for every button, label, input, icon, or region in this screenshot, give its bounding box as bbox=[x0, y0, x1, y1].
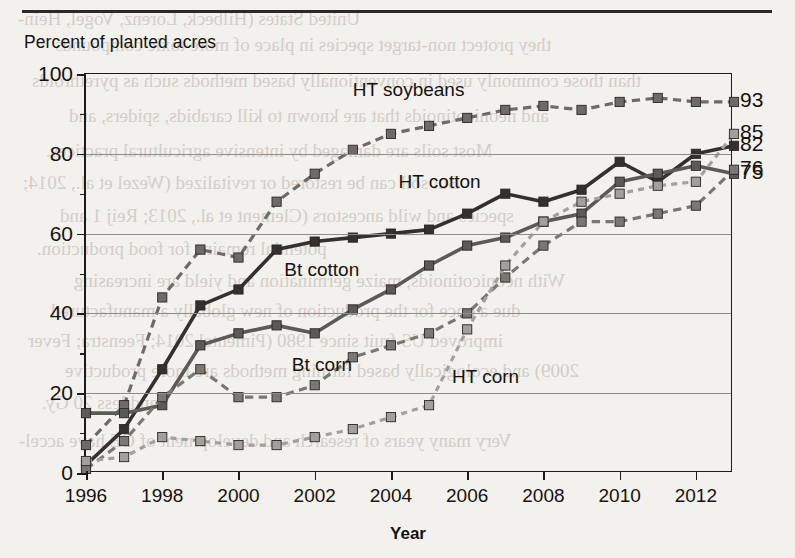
data-point-marker bbox=[196, 436, 205, 445]
series-ht-soybeans bbox=[81, 93, 738, 449]
x-axis-tick bbox=[696, 471, 698, 480]
data-point-marker bbox=[120, 436, 129, 445]
y-gridline bbox=[86, 154, 731, 155]
data-point-marker bbox=[424, 261, 433, 270]
y-axis-tick bbox=[77, 393, 86, 395]
series-label-ht-cotton: HT cotton bbox=[399, 171, 481, 193]
data-point-marker bbox=[577, 105, 586, 114]
data-point-marker bbox=[424, 121, 433, 130]
data-point-marker bbox=[501, 189, 510, 198]
data-point-marker bbox=[501, 105, 510, 114]
data-point-marker bbox=[539, 101, 548, 110]
data-point-marker bbox=[615, 217, 624, 226]
x-axis-tick bbox=[620, 471, 622, 480]
top-rule-divider bbox=[22, 10, 772, 13]
series-bt-cotton bbox=[81, 161, 738, 418]
x-axis-tick bbox=[86, 471, 88, 480]
y-axis-tick-label: 100 bbox=[38, 63, 73, 84]
data-point-marker bbox=[386, 413, 395, 422]
data-point-marker bbox=[501, 261, 510, 270]
x-axis-tick bbox=[162, 471, 164, 480]
data-point-marker bbox=[539, 217, 548, 226]
x-axis-tick-label: 2000 bbox=[217, 485, 259, 507]
data-point-marker bbox=[729, 129, 738, 138]
y-axis-minor-tick bbox=[80, 114, 86, 115]
data-point-marker bbox=[691, 177, 700, 186]
data-point-marker bbox=[729, 141, 738, 150]
series-label-bt-cotton: Bt cotton bbox=[284, 259, 359, 281]
data-point-marker bbox=[272, 321, 281, 330]
data-point-marker bbox=[539, 241, 548, 250]
y-axis-tick bbox=[77, 313, 86, 315]
data-point-marker bbox=[81, 409, 90, 418]
y-axis-tick bbox=[77, 74, 86, 76]
y-axis-minor-tick bbox=[80, 274, 86, 275]
plot-area: 0204060801001996199820002002200420062008… bbox=[84, 73, 732, 472]
chart-figure: Percent of planted acres 020406080100199… bbox=[0, 0, 795, 558]
data-point-marker bbox=[234, 285, 243, 294]
series-line bbox=[86, 166, 734, 413]
y-axis-tick-label: 80 bbox=[50, 143, 73, 164]
data-point-marker bbox=[310, 329, 319, 338]
x-axis-title: Year bbox=[84, 524, 732, 544]
data-point-marker bbox=[577, 185, 586, 194]
data-point-marker bbox=[653, 209, 662, 218]
x-axis-tick-label: 2004 bbox=[370, 485, 412, 507]
y-gridline bbox=[86, 234, 731, 235]
x-axis-tick bbox=[543, 471, 545, 480]
data-point-marker bbox=[653, 93, 662, 102]
data-point-marker bbox=[424, 401, 433, 410]
data-point-marker bbox=[463, 209, 472, 218]
data-point-marker bbox=[501, 273, 510, 282]
y-gridline bbox=[86, 393, 731, 394]
y-axis-tick-label: 40 bbox=[50, 302, 73, 323]
data-point-marker bbox=[386, 341, 395, 350]
series-label-ht-soybeans: HT soybeans bbox=[353, 79, 465, 101]
data-point-marker bbox=[653, 169, 662, 178]
data-point-marker bbox=[234, 440, 243, 449]
x-axis-tick-label: 2002 bbox=[294, 485, 336, 507]
end-value-label: 82 bbox=[740, 132, 763, 156]
data-point-marker bbox=[615, 157, 624, 166]
data-point-marker bbox=[729, 165, 738, 174]
data-point-marker bbox=[729, 97, 738, 106]
data-point-marker bbox=[310, 237, 319, 246]
data-point-marker bbox=[463, 113, 472, 122]
data-point-marker bbox=[310, 381, 319, 390]
data-point-marker bbox=[653, 181, 662, 190]
x-axis-tick-label: 2012 bbox=[675, 485, 717, 507]
y-axis-minor-tick bbox=[80, 194, 86, 195]
data-point-marker bbox=[310, 169, 319, 178]
data-point-marker bbox=[81, 456, 90, 465]
y-axis-tick bbox=[77, 234, 86, 236]
data-point-marker bbox=[158, 432, 167, 441]
data-point-marker bbox=[158, 365, 167, 374]
end-value-label: 75 bbox=[740, 160, 763, 184]
data-point-marker bbox=[424, 329, 433, 338]
data-point-marker bbox=[81, 440, 90, 449]
data-point-marker bbox=[539, 197, 548, 206]
data-point-marker bbox=[691, 201, 700, 210]
data-point-marker bbox=[120, 452, 129, 461]
x-axis-tick bbox=[238, 471, 240, 480]
x-axis-tick bbox=[391, 471, 393, 480]
series-line bbox=[86, 146, 734, 465]
y-axis-tick-label: 20 bbox=[50, 382, 73, 403]
x-axis-tick-label: 1996 bbox=[65, 485, 107, 507]
y-axis-tick bbox=[77, 154, 86, 156]
x-axis-tick-label: 2006 bbox=[446, 485, 488, 507]
data-point-marker bbox=[196, 365, 205, 374]
data-point-marker bbox=[615, 189, 624, 198]
data-point-marker bbox=[234, 329, 243, 338]
data-point-marker bbox=[463, 325, 472, 334]
data-point-marker bbox=[386, 129, 395, 138]
y-axis-minor-tick bbox=[80, 433, 86, 434]
data-point-marker bbox=[234, 253, 243, 262]
data-point-marker bbox=[348, 425, 357, 434]
series-lines-svg bbox=[86, 74, 734, 473]
data-point-marker bbox=[120, 425, 129, 434]
data-point-marker bbox=[577, 217, 586, 226]
series-label-ht-corn: HT corn bbox=[452, 366, 519, 388]
data-point-marker bbox=[196, 301, 205, 310]
series-bt-corn bbox=[81, 165, 738, 473]
